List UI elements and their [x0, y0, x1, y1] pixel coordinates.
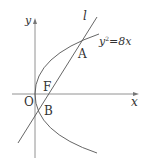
origin-label: O	[24, 95, 34, 109]
equation-rhs: =8x	[109, 35, 132, 48]
y-axis-label: y	[24, 14, 32, 27]
curve-equation: y2=8x	[98, 35, 132, 48]
line-label-l: l	[83, 9, 87, 23]
y-axis-arrow-icon	[33, 18, 37, 24]
x-axis-label: x	[131, 95, 138, 109]
parabola-diagram: y x O l y2=8x A F B	[0, 0, 151, 168]
point-label-b: B	[44, 104, 53, 118]
point-label-a: A	[77, 47, 87, 61]
focal-line-l	[18, 17, 97, 143]
point-label-f: F	[43, 80, 51, 94]
